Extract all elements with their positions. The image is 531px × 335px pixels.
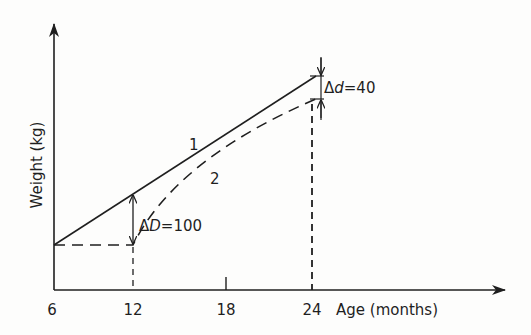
x-axis-title: Age (months) <box>336 301 438 319</box>
delta-D-value: =100 <box>161 217 202 235</box>
x-tick-label-12: 12 <box>123 301 142 319</box>
diagram-canvas: 6 12 18 24 Age (months) Weight (kg) 1 2 … <box>0 0 531 335</box>
delta-d-value: =40 <box>344 79 376 97</box>
x-tick-label-24: 24 <box>302 301 321 319</box>
series-1-label: 1 <box>189 136 199 154</box>
x-tick-label-6: 6 <box>47 301 57 319</box>
delta-D-var: D <box>149 217 161 235</box>
growth-diagram: 6 12 18 24 Age (months) Weight (kg) 1 2 … <box>0 0 531 335</box>
delta-d-var: d <box>334 79 344 97</box>
delta-d-label: Δd=40 <box>324 79 375 97</box>
y-axis-title: Weight (kg) <box>28 122 46 209</box>
x-tick-label-18: 18 <box>216 301 235 319</box>
series-2-label: 2 <box>210 170 220 188</box>
delta-D-label: ΔD=100 <box>139 217 202 235</box>
